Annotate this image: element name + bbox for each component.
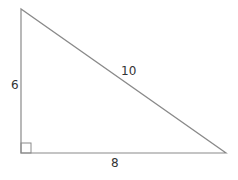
right-triangle-diagram: 6 8 10 (0, 0, 238, 180)
vertical-leg-label: 6 (11, 78, 19, 92)
horizontal-leg-label: 8 (111, 156, 119, 170)
right-angle-marker (21, 143, 31, 153)
hypotenuse-label: 10 (121, 64, 136, 78)
triangle-outline (21, 9, 226, 153)
